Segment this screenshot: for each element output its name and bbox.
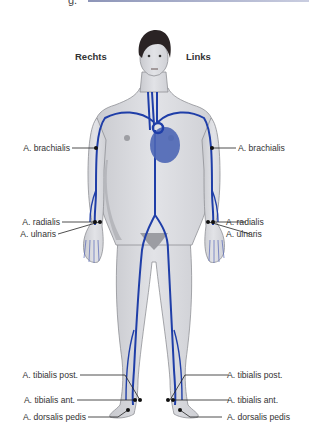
label-tibialis-post-left: A. tibialis post. xyxy=(227,370,282,380)
label-radialis-right: A. radialis xyxy=(22,217,60,227)
label-brachialis-left: A. brachialis xyxy=(238,143,285,153)
body-silhouette xyxy=(83,40,224,418)
label-dorsalis-pedis-left: A. dorsalis pedis xyxy=(227,412,290,422)
label-ulnaris-right: A. ulnaris xyxy=(20,229,56,239)
label-tibialis-post-right: A. tibialis post. xyxy=(23,370,78,380)
label-tibialis-ant-left: A. tibialis ant. xyxy=(227,395,278,405)
label-radialis-left: A. radialis xyxy=(226,217,264,227)
label-ulnaris-left: A. ulnaris xyxy=(226,229,262,239)
label-dorsalis-pedis-right: A. dorsalis pedis xyxy=(23,412,86,422)
label-tibialis-ant-right: A. tibialis ant. xyxy=(24,395,75,405)
label-brachialis-right: A. brachialis xyxy=(23,143,70,153)
